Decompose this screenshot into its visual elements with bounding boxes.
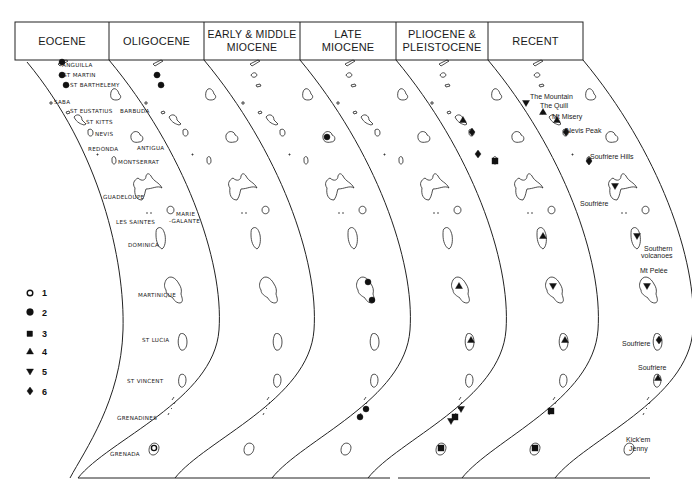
label-marie-galante: MARIE bbox=[176, 211, 195, 217]
label-anguilla: ANGUILLA bbox=[62, 62, 93, 68]
filled-circle-marker-icon bbox=[324, 134, 330, 140]
island-redonda bbox=[97, 154, 98, 155]
island-st-kitts bbox=[74, 115, 86, 125]
label-st-martin: ST MARTIN bbox=[63, 72, 96, 78]
island-barbuda bbox=[111, 89, 121, 100]
filled-circle-marker-icon bbox=[154, 72, 160, 78]
filled-circle-marker-icon bbox=[369, 297, 375, 303]
island-anguilla bbox=[439, 60, 449, 66]
legend-label: 5 bbox=[42, 367, 47, 377]
island-antigua bbox=[131, 132, 143, 143]
island-redonda bbox=[192, 154, 193, 155]
island-st-martin bbox=[534, 73, 540, 78]
island-montserrat bbox=[399, 157, 403, 164]
island-dominica bbox=[443, 228, 452, 249]
island-st-lucia bbox=[273, 333, 282, 350]
label-st-kitts: ST KITTS bbox=[86, 119, 113, 125]
label-southern-volcanoes: Southern bbox=[644, 245, 673, 252]
header-frame bbox=[15, 22, 583, 60]
island-antigua bbox=[418, 132, 430, 143]
triangle-down-marker-icon bbox=[634, 234, 641, 240]
island-st-lucia bbox=[370, 333, 379, 350]
island-grenada bbox=[244, 443, 254, 455]
island-st-martin bbox=[346, 73, 352, 78]
lesser-antilles-volcanism-figure: EOCENE OLIGOCENE EARLY & MIDDLE MIOCENE … bbox=[0, 0, 692, 492]
triangle-down-marker-icon bbox=[644, 284, 651, 290]
island-redonda bbox=[572, 154, 573, 155]
filled-circle-marker-icon bbox=[158, 82, 164, 88]
island-saba bbox=[145, 102, 147, 104]
panel-pliocene-pleistocene-islands bbox=[431, 60, 568, 455]
island-barbuda bbox=[398, 89, 408, 100]
island-st-martin bbox=[440, 73, 446, 78]
filled-circle-marker-icon bbox=[363, 406, 369, 412]
island-guadeloupe bbox=[326, 174, 354, 200]
island-saba bbox=[50, 102, 52, 104]
label-st-eustatius: ST EUSTATIUS bbox=[70, 108, 113, 114]
label-guadeloupe: GUADELOUPE bbox=[103, 194, 145, 200]
island-anguilla bbox=[153, 60, 163, 66]
panel-divider-curve bbox=[368, 60, 506, 478]
island-redonda bbox=[289, 154, 290, 155]
label-antigua: ANTIGUA bbox=[137, 145, 164, 151]
island-st-kitts bbox=[169, 115, 181, 125]
island-st-barthelemy bbox=[351, 84, 356, 87]
legend-label: 4 bbox=[42, 347, 47, 357]
island-grenada bbox=[341, 443, 351, 455]
triangle-down-marker-icon bbox=[550, 284, 557, 290]
triangle-down-marker-icon bbox=[523, 101, 530, 107]
island-nevis bbox=[280, 129, 285, 136]
island-martinique bbox=[546, 277, 564, 303]
triangle-up-marker-icon bbox=[460, 117, 467, 123]
filled-square-marker-icon bbox=[548, 408, 554, 414]
island-grenadines bbox=[168, 397, 175, 415]
island-st-eustatius bbox=[161, 111, 165, 114]
label-barbuda: BARBUDA bbox=[120, 108, 150, 114]
island-dominica bbox=[631, 228, 640, 249]
triangle-down-marker-icon bbox=[448, 419, 455, 425]
triangle-up-marker-icon bbox=[456, 283, 463, 289]
island-dominica bbox=[251, 228, 260, 249]
island-guadeloupe bbox=[515, 174, 543, 200]
label-soufriere-hills: Soufriere Hills bbox=[590, 153, 634, 160]
island-marie-galante bbox=[262, 206, 269, 214]
island-anguilla bbox=[533, 60, 543, 66]
label-soufriere-st-lucia: Soufriere bbox=[622, 340, 651, 347]
label-st-vincent: ST VINCENT bbox=[127, 378, 164, 384]
island-nevis bbox=[183, 129, 188, 136]
label-mt-misery: Mt Misery bbox=[552, 113, 583, 121]
island-antigua bbox=[512, 132, 524, 143]
label-southern-volcanoes-2: volcanoes bbox=[641, 252, 673, 259]
island-saba bbox=[337, 102, 339, 104]
filled-square-marker-icon bbox=[438, 445, 444, 451]
label-soufriere-guadeloupe: Soufrière bbox=[580, 200, 609, 207]
legend: 1 2 3 4 5 6 bbox=[27, 288, 48, 397]
island-st-kitts bbox=[361, 115, 373, 125]
island-st-barthelemy bbox=[539, 84, 544, 87]
island-anguilla bbox=[250, 60, 260, 66]
legend-label: 3 bbox=[42, 329, 47, 339]
panel-oligocene-islands bbox=[145, 60, 282, 455]
label-martinique: MARTINIQUE bbox=[138, 292, 176, 298]
label-kick-em-jenny: Kick'em bbox=[626, 436, 650, 443]
island-martinique bbox=[260, 277, 278, 303]
island-antigua bbox=[606, 132, 618, 143]
panel-late-miocene-islands bbox=[337, 60, 474, 455]
island-st-eustatius bbox=[353, 111, 357, 114]
panel-divider-curve bbox=[175, 60, 314, 478]
triangle-up-marker-icon bbox=[540, 109, 547, 115]
island-guadeloupe bbox=[421, 174, 449, 200]
island-marie-galante bbox=[454, 206, 461, 214]
filled-square-marker-icon bbox=[492, 158, 498, 164]
island-st-vincent bbox=[560, 374, 567, 387]
label-st-barthelemy: ST BARTHELEMY bbox=[70, 82, 120, 88]
filled-square-marker-icon bbox=[532, 445, 538, 451]
island-st-eustatius bbox=[447, 111, 451, 114]
island-st-kitts bbox=[266, 115, 278, 125]
island-st-vincent bbox=[274, 374, 281, 387]
filled-circle-marker-icon bbox=[357, 414, 363, 420]
panel-eocene-islands bbox=[50, 60, 187, 455]
island-saba bbox=[242, 102, 244, 104]
island-st-martin bbox=[251, 73, 257, 78]
island-st-vincent bbox=[466, 374, 473, 387]
